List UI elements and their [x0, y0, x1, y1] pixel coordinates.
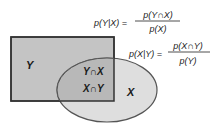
formula-1-denominator: p(X)	[148, 24, 166, 34]
formula-p-x-given-y: p(X|Y) = p(X∩Y) p(Y)	[128, 41, 210, 66]
formula-1-numerator: p(Y∩X)	[142, 10, 172, 20]
label-y-intersect-x: Y∩X	[83, 66, 105, 77]
formula-2-numerator: p(X∩Y)	[172, 41, 202, 51]
venn-diagram: Y Y∩X X∩Y X p(Y|X) = p(Y∩X) p(X) p(X|Y) …	[0, 0, 217, 130]
formula-2-denominator: p(Y)	[178, 56, 196, 66]
formula-1-lhs: p(Y|X) =	[93, 18, 127, 28]
label-x: X	[126, 86, 135, 98]
label-x-intersect-y: X∩Y	[82, 83, 105, 94]
formula-p-y-given-x: p(Y|X) = p(Y∩X) p(X)	[93, 10, 180, 34]
formula-2-lhs: p(X|Y) =	[128, 49, 162, 59]
